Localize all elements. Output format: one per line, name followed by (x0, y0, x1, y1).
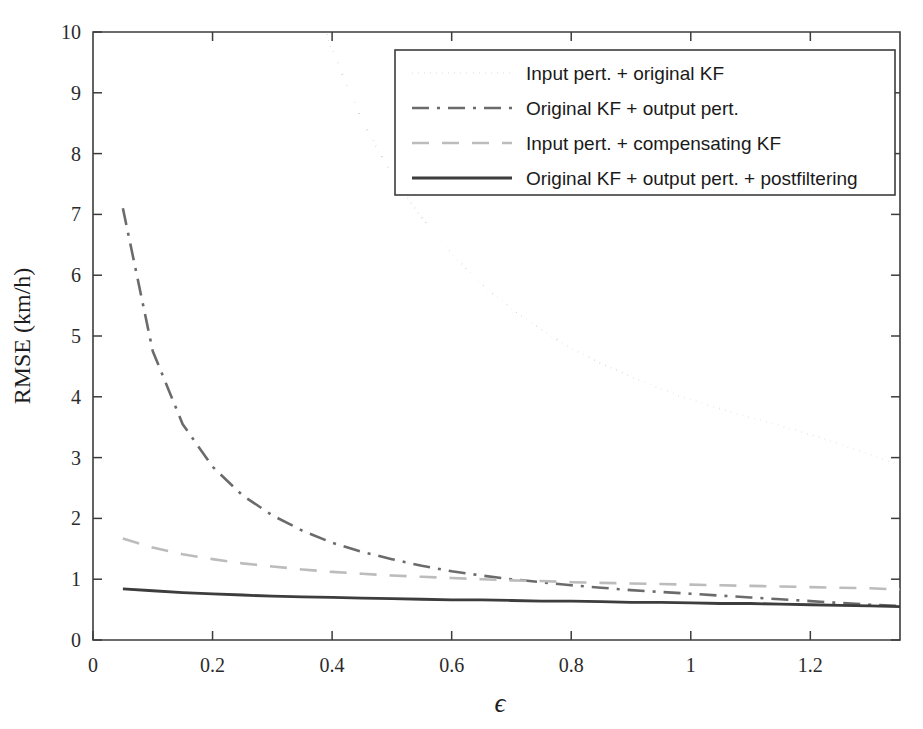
x-tick-label: 0.8 (559, 654, 584, 676)
y-tick-label: 8 (71, 143, 81, 165)
y-axis-label: RMSE (km/h) (9, 268, 35, 405)
x-tick-label: 0.2 (200, 654, 225, 676)
x-tick-label: 0.6 (439, 654, 464, 676)
x-tick-label: 0 (88, 654, 98, 676)
legend-label-0: Input pert. + original KF (526, 63, 724, 84)
y-tick-label: 6 (71, 264, 81, 286)
y-tick-label: 4 (71, 386, 81, 408)
rmse-vs-epsilon-chart: 012345678910 00.20.40.60.811.2 RMSE (km/… (0, 0, 923, 729)
y-tick-label: 10 (61, 21, 81, 43)
x-tick-label: 1 (686, 654, 696, 676)
y-tick-label: 9 (71, 82, 81, 104)
legend-label-1: Original KF + output pert. (526, 98, 739, 119)
y-tick-label: 2 (71, 507, 81, 529)
x-axis-label: ϵ (495, 688, 507, 718)
y-tick-label: 3 (71, 447, 81, 469)
y-tick-label: 7 (71, 203, 81, 225)
y-tick-label: 1 (71, 568, 81, 590)
y-tick-label: 5 (71, 325, 81, 347)
chart-figure: 012345678910 00.20.40.60.811.2 RMSE (km/… (0, 0, 923, 729)
chart-legend: Input pert. + original KFOriginal KF + o… (395, 50, 895, 195)
y-tick-label: 0 (71, 629, 81, 651)
legend-label-3: Original KF + output pert. + postfilteri… (526, 168, 858, 189)
x-tick-label: 0.4 (320, 654, 345, 676)
legend-label-2: Input pert. + compensating KF (526, 133, 781, 154)
x-tick-label: 1.2 (798, 654, 823, 676)
